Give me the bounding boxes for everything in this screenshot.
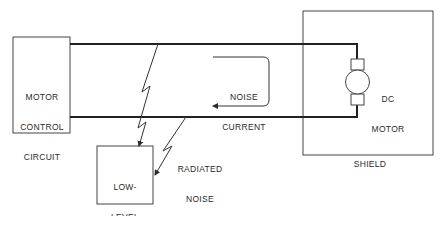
dc-motor-line1: DC bbox=[370, 94, 406, 104]
radiated-noise-line1: RADIATED bbox=[176, 164, 224, 174]
noise-coupling-bolt bbox=[138, 44, 158, 146]
radiated-noise-label: RADIATED NOISE bbox=[176, 144, 224, 214]
low-level-label: LOW- LEVEL CIRCUITS bbox=[97, 162, 153, 216]
low-level-line2: LEVEL bbox=[97, 212, 153, 216]
top-wire bbox=[70, 44, 357, 60]
dc-motor-label: DC MOTOR bbox=[370, 74, 406, 144]
noise-current-line1: NOISE bbox=[222, 92, 266, 102]
shield-label: SHIELD bbox=[350, 159, 390, 169]
motor-control-label: MOTOR CONTROL CIRCUIT bbox=[14, 72, 70, 172]
dc-motor-symbol bbox=[346, 59, 370, 105]
low-level-line1: LOW- bbox=[97, 182, 153, 192]
motor-control-line1: MOTOR bbox=[14, 92, 70, 102]
noise-current-line2: CURRENT bbox=[222, 122, 266, 132]
dc-motor-line2: MOTOR bbox=[370, 124, 406, 134]
noise-current-label: NOISE CURRENT bbox=[222, 72, 266, 142]
radiated-noise-line2: NOISE bbox=[176, 194, 224, 204]
motor-control-line3: CIRCUIT bbox=[14, 152, 70, 162]
motor-control-line2: CONTROL bbox=[14, 122, 70, 132]
